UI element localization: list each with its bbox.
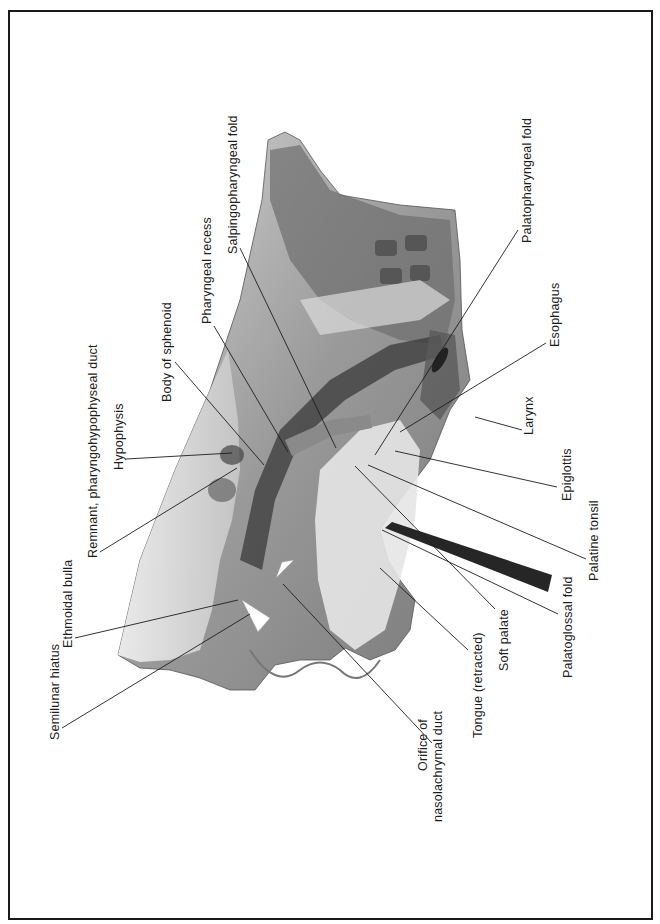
label-esophagus: Esophagus xyxy=(548,283,562,347)
label-palatoglossal-fold: Palatoglossal fold xyxy=(561,576,575,678)
label-salpingopharyngeal-fold: Salpingopharyngeal fold xyxy=(226,115,240,254)
label-soft-palate: Soft palate xyxy=(497,609,511,671)
label-pharyngeal-recess: Pharyngeal recess xyxy=(200,217,214,324)
label-tongue-retracted: Tongue (retracted) xyxy=(471,632,485,738)
label-semilunar-hiatus: Semilunar hiatus xyxy=(48,644,62,740)
label-ethmoidal-bulla: Ethmoidal bulla xyxy=(61,560,75,648)
label-hypophysis: Hypophysis xyxy=(112,403,126,470)
specimen-silhouette xyxy=(118,132,552,690)
label-orifice-of-nasolachrymal-duct-line2: nasolachrymal duct xyxy=(431,711,445,822)
label-larynx: Larynx xyxy=(522,396,536,435)
label-palatopharyngeal-fold: Palatopharyngeal fold xyxy=(520,118,534,243)
label-remnant-pharyngohypophyseal-duct: Remnant, pharyngohypophyseal duct xyxy=(86,344,100,558)
label-palatine-tonsil: Palatine tonsil xyxy=(587,500,601,581)
label-epiglottis: Epiglottis xyxy=(560,448,574,501)
label-body-of-sphenoid: Body of sphenoid xyxy=(160,302,174,402)
label-orifice-of-nasolachrymal-duct-line1: Orifice of xyxy=(416,719,430,771)
